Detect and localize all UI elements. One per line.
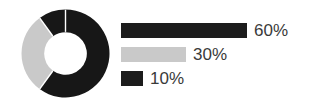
legend-label-10: 10%	[150, 68, 184, 90]
legend-bar-10	[121, 71, 143, 86]
chart-legend: 60% 30% 10%	[121, 20, 310, 92]
legend-label-30: 30%	[193, 44, 227, 66]
legend-item-30[interactable]: 30%	[121, 44, 310, 68]
legend-item-60[interactable]: 60%	[121, 20, 310, 44]
donut-chart-graphic	[21, 9, 110, 98]
legend-bar-30	[121, 47, 186, 62]
legend-label-60: 60%	[254, 20, 288, 42]
donut-chart-figure: 60% 30% 10%	[0, 0, 310, 104]
legend-item-10[interactable]: 10%	[121, 68, 310, 92]
legend-bar-60	[121, 23, 247, 38]
